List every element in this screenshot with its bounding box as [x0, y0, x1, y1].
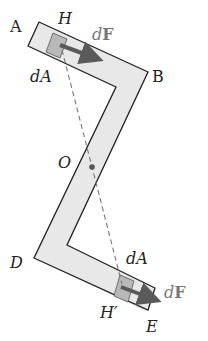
label-a: A	[9, 17, 22, 36]
label-df-bottom-f: F	[174, 283, 186, 302]
label-df-top-f: F	[102, 25, 114, 44]
label-da-top: dA	[30, 67, 52, 86]
label-o: O	[58, 153, 71, 172]
label-h-prime: H′	[99, 303, 118, 322]
label-df-top-d: d	[92, 25, 102, 44]
z-section-diagram: A H dF B dA O D dA dF H′ E	[0, 0, 208, 341]
label-d: D	[9, 253, 23, 272]
label-df-top: dF	[92, 25, 114, 44]
label-df-bottom-d: d	[164, 283, 174, 302]
label-df-bottom: dF	[164, 283, 186, 302]
label-da-bottom: dA	[126, 249, 148, 268]
label-e: E	[145, 317, 158, 336]
label-b: B	[152, 67, 164, 86]
label-h: H	[57, 9, 73, 28]
center-point-o	[89, 164, 95, 170]
